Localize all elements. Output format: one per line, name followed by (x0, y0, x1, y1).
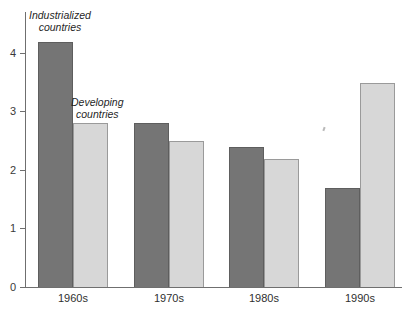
bar-developing-1980s (264, 159, 299, 287)
x-category-label-1960s: 1960s (38, 293, 108, 304)
legend-label-industrialized: Industrialized countries (29, 9, 91, 33)
legend-label-industrialized-line1: Industrialized (29, 9, 91, 21)
print-speck-artifact (322, 127, 325, 131)
legend-label-developing: Developing countries (71, 96, 124, 120)
bar-developing-1970s (169, 141, 204, 287)
legend-label-industrialized-line2: countries (29, 21, 91, 33)
bar-industrialized-1980s (229, 147, 264, 287)
x-category-label-1970s: 1970s (134, 293, 204, 304)
bar-industrialized-1960s (38, 42, 73, 287)
plot-area (0, 0, 407, 314)
x-category-label-1990s: 1990s (325, 293, 395, 304)
bar-developing-1990s (360, 83, 395, 287)
bar-developing-1960s (73, 123, 108, 287)
legend-label-developing-line2: countries (71, 108, 124, 120)
x-category-label-1980s: 1980s (229, 293, 299, 304)
bar-industrialized-1990s (325, 188, 360, 287)
bar-chart: 0 1 2 3 4 1960s 1970s 1980s 1990s Indust… (0, 0, 407, 314)
legend-label-developing-line1: Developing (71, 96, 124, 108)
bar-industrialized-1970s (134, 123, 169, 287)
